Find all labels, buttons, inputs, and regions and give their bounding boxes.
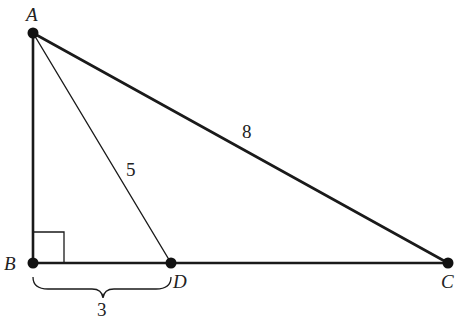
length-label-bd: 3 xyxy=(97,299,107,320)
right-angle-marker xyxy=(33,232,64,263)
point-a xyxy=(28,28,39,39)
right-triangle-diagram: A B D C 8 5 3 xyxy=(0,0,461,321)
label-b: B xyxy=(4,253,16,274)
segment-ac-hypotenuse xyxy=(33,33,448,263)
length-label-ad: 5 xyxy=(126,159,136,180)
point-c xyxy=(443,258,454,269)
brace-bd xyxy=(33,277,171,298)
point-d xyxy=(166,258,177,269)
label-d: D xyxy=(172,271,187,292)
length-label-ac: 8 xyxy=(242,121,252,142)
label-c: C xyxy=(441,271,454,292)
label-a: A xyxy=(24,4,38,25)
point-b xyxy=(28,258,39,269)
segment-ad xyxy=(33,33,171,263)
